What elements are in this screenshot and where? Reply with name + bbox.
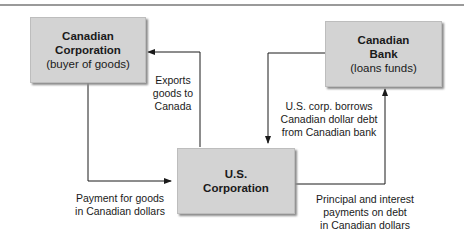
repay-label: Principal and interest payments on debt … <box>306 193 424 232</box>
borrow-label-line-2: Canadian dollar debt <box>274 113 384 126</box>
payment-label-line-1: Payment for goods <box>64 192 176 205</box>
canadian-corporation-title-2: Corporation <box>55 43 121 57</box>
canadian-corporation-title-1: Canadian <box>62 29 114 43</box>
canadian-bank-box: Canadian Bank (loans funds) <box>325 21 442 87</box>
payment-label: Payment for goods in Canadian dollars <box>64 192 176 218</box>
repay-label-line-2: payments on debt <box>306 206 424 219</box>
us-corporation-box: U.S. Corporation <box>177 148 295 214</box>
repay-label-line-1: Principal and interest <box>306 193 424 206</box>
borrow-label: U.S. corp. borrows Canadian dollar debt … <box>274 100 384 139</box>
exports-label-line-1: Exports <box>148 74 198 87</box>
canadian-bank-title-2: Bank <box>369 47 397 61</box>
canadian-corporation-box: Canadian Corporation (buyer of goods) <box>30 17 146 83</box>
payment-label-line-2: in Canadian dollars <box>64 205 176 218</box>
us-corporation-title-1: U.S. <box>225 167 247 181</box>
exports-label-line-3: Canada <box>148 100 198 113</box>
repay-label-line-3: in Canadian dollars <box>306 219 424 232</box>
exports-label: Exports goods to Canada <box>148 74 198 113</box>
exports-label-line-2: goods to <box>148 87 198 100</box>
canadian-bank-title-1: Canadian <box>358 33 410 47</box>
borrow-label-line-3: from Canadian bank <box>274 126 384 139</box>
us-corporation-title-2: Corporation <box>203 181 269 195</box>
canadian-corporation-subtitle: (buyer of goods) <box>46 57 130 71</box>
canadian-bank-subtitle: (loans funds) <box>350 61 416 75</box>
borrow-label-line-1: U.S. corp. borrows <box>274 100 384 113</box>
